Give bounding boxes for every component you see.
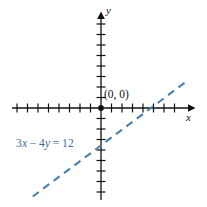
x-axis-label: x — [186, 112, 191, 123]
equation-constant: 12 — [62, 137, 74, 149]
origin-point-label: (0, 0) — [104, 89, 129, 101]
origin-point-marker — [98, 105, 104, 111]
equation-operator: − — [30, 137, 37, 149]
equation-annotation: 3x − 4y = 12 — [16, 138, 74, 150]
equation-equals: = — [53, 137, 60, 149]
equation-var-y: y — [45, 137, 50, 149]
coordinate-plane-svg — [0, 0, 207, 207]
equation-var-x: x — [22, 137, 27, 149]
graph-figure: y x (0, 0) 3x − 4y = 12 — [0, 0, 207, 207]
y-axis-label: y — [106, 5, 111, 16]
